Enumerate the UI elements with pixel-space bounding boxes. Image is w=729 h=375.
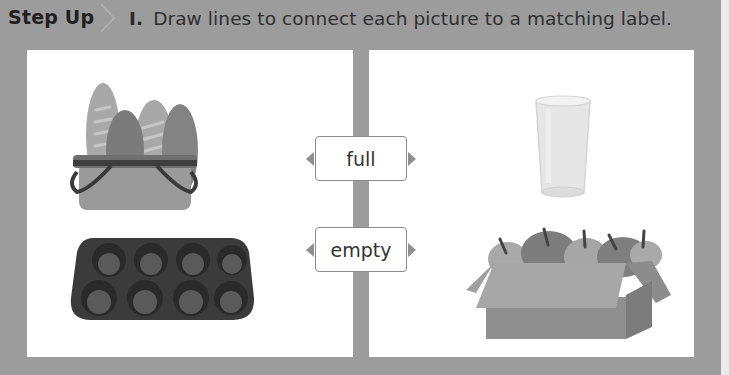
page-edge: [721, 0, 729, 375]
left-picture-panel: [27, 50, 353, 357]
full-right-connector-icon[interactable]: [408, 152, 416, 166]
header: Step Up I.Draw lines to connect each pic…: [0, 0, 721, 40]
apple-box-picture[interactable]: [466, 215, 671, 339]
label-full-text: full: [346, 148, 375, 170]
empty-glass-picture[interactable]: [532, 95, 594, 201]
label-empty-text: empty: [331, 239, 392, 261]
label-full[interactable]: full: [315, 136, 407, 181]
right-picture-panel: [369, 50, 694, 357]
step-up-badge: Step Up: [8, 6, 94, 28]
full-left-connector-icon[interactable]: [306, 152, 314, 166]
question-number: I.: [129, 8, 143, 29]
bread-basket-picture[interactable]: [69, 80, 199, 212]
muffin-tin-picture[interactable]: [69, 236, 255, 322]
empty-right-connector-icon[interactable]: [408, 243, 416, 257]
label-empty[interactable]: empty: [315, 227, 407, 272]
instruction-body: Draw lines to connect each picture to a …: [153, 8, 672, 29]
empty-left-connector-icon[interactable]: [306, 243, 314, 257]
chevron-divider-icon: [98, 2, 118, 32]
instruction-text: I.Draw lines to connect each picture to …: [129, 8, 672, 29]
worksheet-page: Step Up I.Draw lines to connect each pic…: [0, 0, 721, 375]
center-divider: [353, 50, 369, 357]
